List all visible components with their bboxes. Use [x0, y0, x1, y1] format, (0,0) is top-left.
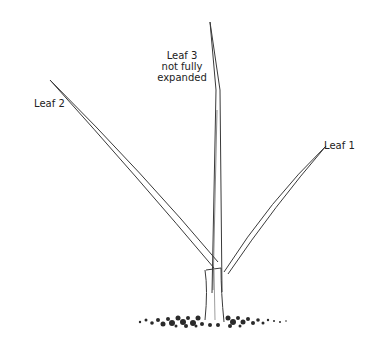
soil-surface [139, 316, 287, 329]
leaf-1-label: Leaf 1 [324, 140, 355, 151]
stem-sheath [205, 268, 224, 322]
leaf-3-label: Leaf 3 not fully expanded [152, 50, 212, 83]
seedling-diagram: Leaf 2 Leaf 1 Leaf 3 not fully expanded [0, 0, 373, 356]
leaf-1-blade [224, 146, 326, 274]
leaf-3-label-line-2: not fully [152, 61, 212, 72]
leaf-2-label: Leaf 2 [34, 98, 65, 109]
leaf-3-label-line-1: Leaf 3 [152, 50, 212, 61]
leaf-3-label-line-3: expanded [152, 72, 212, 83]
leaf-2-blade [50, 80, 218, 268]
